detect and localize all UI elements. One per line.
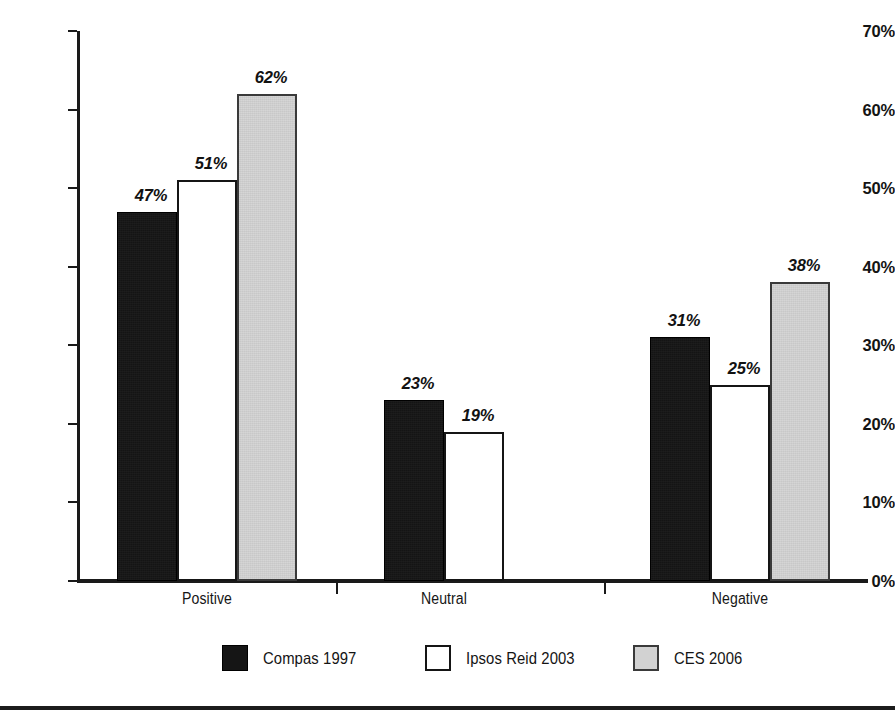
plot-area: 0%10%20%30%40%50%60%70% 47%51%62%23%19%3…	[0, 0, 895, 600]
legend-label: Ipsos Reid 2003	[466, 649, 575, 668]
chart-page: 0%10%20%30%40%50%60%70% 47%51%62%23%19%3…	[0, 0, 895, 721]
page-divider-rule	[0, 706, 895, 710]
bar	[177, 180, 237, 581]
legend-label: CES 2006	[674, 649, 742, 668]
y-axis-tick-label: 70%	[833, 23, 895, 40]
bar-value-label: 47%	[121, 187, 181, 204]
x-axis-group-tick	[604, 583, 606, 594]
legend-item[interactable]: CES 2006	[633, 643, 750, 673]
bar	[384, 400, 444, 581]
y-axis-tick	[68, 109, 77, 111]
y-axis-tick	[68, 580, 77, 582]
bar	[444, 432, 504, 581]
y-axis-tick	[68, 187, 77, 189]
x-axis-category-label-neutral: Neutral	[338, 590, 549, 608]
legend-swatch-black	[222, 645, 248, 671]
bar-value-label: 25%	[714, 360, 774, 377]
y-axis-line	[77, 31, 80, 583]
y-axis-tick-label: 50%	[833, 180, 895, 197]
bar	[650, 337, 710, 581]
y-axis-tick-label: 60%	[833, 102, 895, 119]
y-axis-tick	[68, 423, 77, 425]
legend-item[interactable]: Ipsos Reid 2003	[425, 643, 587, 673]
x-axis-category-label-negative: Negative	[608, 590, 872, 608]
legend-swatch-gray	[633, 645, 659, 671]
bar-value-label: 19%	[448, 407, 508, 424]
bar-value-label: 31%	[654, 312, 714, 329]
y-axis-tick-label: 30%	[833, 337, 895, 354]
bar-value-label: 62%	[241, 69, 301, 86]
x-axis-category-label-positive: Positive	[75, 590, 339, 608]
y-axis-tick	[68, 266, 77, 268]
bar	[237, 94, 297, 581]
y-axis-tick	[68, 30, 77, 32]
y-axis-tick-label: 40%	[833, 259, 895, 276]
bar-value-label: 23%	[388, 375, 448, 392]
y-axis-tick-label: 0%	[833, 573, 895, 590]
bar-value-label: 38%	[774, 257, 834, 274]
legend-item[interactable]: Compas 1997	[222, 643, 367, 673]
y-axis-tick-label: 20%	[833, 416, 895, 433]
bar	[117, 212, 177, 581]
chart-legend: Compas 1997Ipsos Reid 2003CES 2006	[0, 643, 895, 677]
bar-value-label: 51%	[181, 155, 241, 172]
y-axis-tick-label: 10%	[833, 494, 895, 511]
legend-label: Compas 1997	[263, 649, 356, 668]
legend-swatch-white	[425, 645, 451, 671]
bar	[770, 282, 830, 581]
y-axis-tick	[68, 501, 77, 503]
y-axis-tick	[68, 344, 77, 346]
bar	[710, 385, 770, 581]
